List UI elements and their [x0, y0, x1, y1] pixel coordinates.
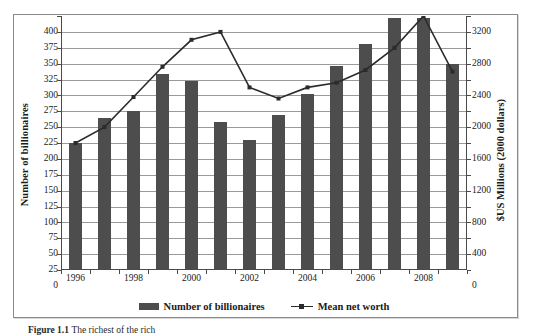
line-marker-swatch-icon [291, 302, 313, 311]
line-marker [219, 30, 223, 34]
line-marker [422, 16, 426, 18]
y-axis-left-tick-label: 375 [44, 43, 58, 53]
y-axis-left-tick-label: 125 [44, 202, 58, 212]
legend-label-mean-net-worth: Mean net worth [318, 301, 390, 312]
legend-item-number-of-billionaires: Number of billionaires [139, 301, 265, 312]
line-marker [248, 85, 252, 89]
bar-swatch-icon [139, 303, 159, 310]
y-axis-right-tick-label: 2800 [472, 59, 491, 69]
y-axis-right-tick-label: 400 [472, 250, 486, 260]
y-axis-right-tick-labels: 0400800120016002000240028003200 [472, 16, 506, 270]
y-axis-left-tick-label: 325 [44, 75, 58, 85]
x-axis-tick-labels: 1996199820002002200420062008 [61, 274, 467, 290]
x-axis-tick-label: 1998 [124, 274, 143, 284]
y-axis-left-tick-label: 250 [44, 123, 58, 133]
x-axis-tick-label: 2004 [298, 274, 317, 284]
y-axis-left-tick-label: 300 [44, 91, 58, 101]
line-marker [132, 95, 136, 99]
y-axis-right-tick-label: 0 [472, 281, 477, 291]
y-axis-left-tick-label: 150 [44, 186, 58, 196]
line-marker [364, 68, 368, 72]
line-series-mean-net-worth [61, 16, 467, 270]
x-axis-tick-label: 2006 [356, 274, 375, 284]
y-axis-right-tick-label: 800 [472, 218, 486, 228]
y-axis-left-tick-label: 275 [44, 107, 58, 117]
line-marker [161, 65, 165, 69]
line-marker [103, 125, 107, 129]
line-marker [306, 85, 310, 89]
legend-item-mean-net-worth: Mean net worth [291, 301, 390, 312]
y-axis-right-tick-label: 2000 [472, 123, 491, 133]
y-axis-left-tick-label: 100 [44, 218, 58, 228]
y-axis-left-tick-label: 50 [49, 250, 59, 260]
y-axis-right-tick-label: 3200 [472, 27, 491, 37]
line-marker [74, 141, 78, 145]
y-axis-left-tick-label: 200 [44, 154, 58, 164]
figure-caption-text: The richest of the rich [71, 325, 155, 335]
y-axis-right-tick-label: 1600 [472, 154, 491, 164]
y-axis-right-tick-label: 2400 [472, 91, 491, 101]
x-axis-tick-label: 2000 [182, 274, 201, 284]
y-axis-right-tick-label: 1200 [472, 186, 491, 196]
chart-legend: Number of billionaires Mean net worth [61, 297, 467, 315]
figure-caption: Figure 1.1 The richest of the rich [28, 325, 155, 335]
y-axis-left-tick-labels: 0255075100125150175200225250275300325350… [28, 16, 58, 270]
y-axis-left-tick-label: 0 [53, 281, 58, 291]
plot-area [61, 16, 467, 270]
line-path [76, 16, 453, 143]
line-marker [335, 81, 339, 85]
line-marker [451, 70, 455, 74]
mean-net-worth-line [61, 16, 467, 270]
x-axis-tick-label: 2008 [414, 274, 433, 284]
x-axis-tick-label: 2002 [240, 274, 259, 284]
y-axis-left-tick-label: 225 [44, 138, 58, 148]
y-axis-left-tick-label: 75 [49, 234, 59, 244]
x-axis-tick-label: 1996 [66, 274, 85, 284]
line-marker [277, 97, 281, 101]
line-marker [393, 46, 397, 50]
y-axis-left-tick-label: 350 [44, 59, 58, 69]
y-axis-left-tick-label: 25 [49, 265, 59, 275]
line-marker [190, 38, 194, 42]
legend-label-number-of-billionaires: Number of billionaires [164, 301, 265, 312]
figure-caption-label: Figure 1.1 [28, 325, 69, 335]
y-axis-left-tick-label: 175 [44, 170, 58, 180]
y-axis-left-tick-label: 400 [44, 27, 58, 37]
